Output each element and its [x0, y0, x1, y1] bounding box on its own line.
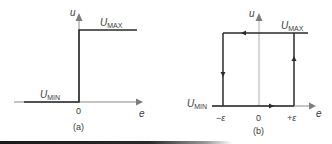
panel-b-umin-label: UMIN: [187, 98, 207, 110]
panel-b-origin-label: 0: [256, 113, 261, 123]
panel-b-neg-epsilon-label: −ε: [216, 113, 226, 123]
panel-b-bottom-right-arrow-icon: [269, 104, 274, 109]
panel-b-caption: (b): [253, 126, 264, 136]
panel-a-caption: (a): [73, 122, 84, 132]
panel-b-e-label: e: [316, 108, 322, 119]
panel-b-pos-epsilon-label: +ε: [287, 113, 297, 123]
panel-b-u-label: u: [249, 8, 255, 19]
panel-b-top-left-arrow-icon: [241, 31, 246, 36]
panel-a: u UMAX UMIN 0 e (a): [14, 7, 145, 132]
bottom-rule: [0, 141, 332, 144]
panel-a-u-label: u: [70, 7, 76, 18]
panel-b-e-axis-arrow-icon: [309, 103, 316, 110]
panel-a-e-axis-arrow-icon: [136, 99, 143, 106]
panel-b: u UMAX UMIN −ε 0 +ε e (b): [187, 8, 322, 136]
panel-b-right-up-arrow-icon: [292, 56, 297, 61]
panel-a-origin-label: 0: [76, 106, 81, 116]
panel-a-u-axis-arrow-icon: [76, 13, 83, 21]
diagram-canvas: u UMAX UMIN 0 e (a) u UMAX UMIN −ε 0 +ε …: [0, 0, 332, 144]
panel-a-umin-label: UMIN: [40, 89, 60, 101]
panel-a-e-label: e: [139, 108, 145, 119]
panel-b-left-down-arrow-icon: [221, 72, 226, 77]
panel-b-u-axis-arrow-icon: [256, 13, 263, 21]
panel-b-umax-label: UMAX: [281, 20, 304, 32]
panel-a-umax-label: UMAX: [100, 17, 123, 29]
